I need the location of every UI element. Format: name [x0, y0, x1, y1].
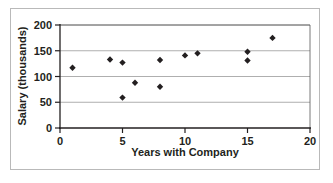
- data-point-10: [244, 57, 250, 63]
- y-axis-title: Salary (thousands): [16, 26, 28, 125]
- data-point-7: [182, 52, 188, 58]
- x-tick-label-15: 15: [241, 135, 253, 147]
- data-point-1: [107, 56, 113, 62]
- data-point-5: [157, 57, 163, 63]
- y-tick-label-200: 200: [34, 19, 52, 31]
- chart-canvas: 050100150200 05101520 Salary (thousands)…: [0, 0, 333, 183]
- y-tick-labels: 050100150200: [34, 19, 52, 134]
- data-points: [69, 35, 275, 101]
- y-tick-label-150: 150: [34, 45, 52, 57]
- data-point-3: [119, 94, 125, 100]
- y-tick-label-100: 100: [34, 71, 52, 83]
- data-point-4: [132, 79, 138, 85]
- data-point-11: [269, 35, 275, 41]
- y-axis: [55, 24, 60, 129]
- y-tick-label-50: 50: [40, 96, 52, 108]
- y-tick-label-0: 0: [46, 122, 52, 134]
- data-point-6: [157, 84, 163, 90]
- data-point-9: [244, 49, 250, 55]
- x-tick-label-0: 0: [57, 135, 63, 147]
- x-axis: [59, 128, 311, 133]
- data-point-2: [119, 59, 125, 65]
- scatter-plot-figure: 050100150200 05101520 Salary (thousands)…: [0, 0, 333, 183]
- x-tick-label-20: 20: [304, 135, 316, 147]
- x-axis-title: Years with Company: [131, 146, 239, 158]
- x-tick-label-5: 5: [119, 135, 125, 147]
- data-point-0: [69, 65, 75, 71]
